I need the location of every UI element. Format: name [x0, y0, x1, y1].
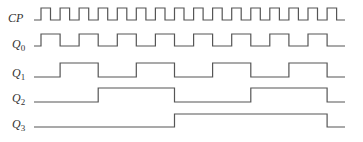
waveform-q3 — [34, 114, 345, 127]
signal-q0: Q0 — [12, 34, 345, 53]
label-q1: Q1 — [12, 66, 25, 82]
label-q0: Q0 — [12, 37, 26, 53]
signal-q3: Q3 — [12, 114, 345, 133]
signal-q1: Q1 — [12, 63, 345, 82]
label-q3: Q3 — [12, 117, 26, 133]
label-q2: Q2 — [12, 91, 25, 107]
label-cp: CP — [8, 11, 24, 25]
waveform-q1 — [34, 63, 345, 77]
waveform-cp — [34, 8, 345, 20]
waveform-q0 — [34, 34, 345, 46]
signal-cp: CP — [8, 8, 345, 25]
timing-diagram: CP Q0 Q1 Q2 Q3 — [0, 0, 363, 142]
waveform-q2 — [34, 88, 345, 102]
signal-q2: Q2 — [12, 88, 345, 107]
